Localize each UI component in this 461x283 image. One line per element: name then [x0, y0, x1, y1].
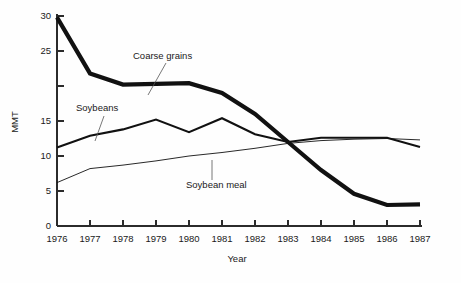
- x-tick-label: 1978: [112, 233, 133, 244]
- x-tick-label: 1981: [211, 233, 232, 244]
- axes: 0510152530197619771978197919801981198219…: [40, 10, 430, 244]
- x-tick-label: 1986: [376, 233, 397, 244]
- annotation-leader-line: [95, 116, 104, 141]
- annotation-label-soybean-meal: Soybean meal: [186, 179, 247, 190]
- y-tick-label: 25: [40, 45, 51, 56]
- annotation-leader-line: [148, 63, 166, 95]
- series-annotations: Coarse grainsSoybeansSoybean meal: [76, 50, 247, 190]
- x-tick-label: 1982: [244, 233, 265, 244]
- y-tick-label: 5: [46, 185, 51, 196]
- x-tick-label: 1985: [343, 233, 364, 244]
- x-tick-label: 1979: [145, 233, 166, 244]
- line-chart: 0510152530197619771978197919801981198219…: [0, 0, 461, 283]
- x-tick-label: 1980: [178, 233, 199, 244]
- y-axis-label: MMT: [9, 111, 20, 133]
- chart-container: 0510152530197619771978197919801981198219…: [0, 0, 461, 283]
- series-line-soybean-meal: [57, 139, 420, 183]
- series-line-soybeans: [57, 118, 420, 147]
- x-tick-label: 1984: [310, 233, 331, 244]
- x-tick-label: 1976: [46, 233, 67, 244]
- y-tick-label: 10: [40, 150, 51, 161]
- x-tick-label: 1987: [409, 233, 430, 244]
- annotation-label-coarse-grains: Coarse grains: [133, 50, 192, 61]
- y-tick-label: 30: [40, 10, 51, 21]
- annotation-label-soybeans: Soybeans: [76, 102, 119, 113]
- x-axis-label: Year: [227, 253, 246, 264]
- y-tick-label: 0: [46, 220, 51, 231]
- y-tick-label: 15: [40, 115, 51, 126]
- x-tick-label: 1977: [79, 233, 100, 244]
- x-tick-label: 1983: [277, 233, 298, 244]
